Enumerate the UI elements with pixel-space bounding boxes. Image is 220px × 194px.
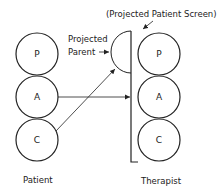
transactional-diagram: (Projected Patient Screen) Projected Par…: [0, 0, 220, 194]
patient-adult-label: A: [34, 92, 41, 102]
projected-screen-line: [131, 31, 138, 162]
title-pointer-arrow: [143, 21, 153, 29]
patient-parent-label: P: [34, 49, 40, 59]
child-to-projected-parent-arrow: [56, 69, 115, 131]
therapist-ego-states: P A C: [138, 33, 180, 161]
patient-ego-states: P A C: [16, 33, 58, 161]
projected-parent-label-line2: Parent: [68, 47, 96, 57]
projected-parent-label-line1: Projected: [68, 34, 108, 44]
patient-child-label: C: [34, 135, 40, 145]
therapist-parent-label: P: [156, 49, 162, 59]
patient-label: Patient: [23, 175, 53, 185]
projected-parent-half-circle: [111, 31, 131, 73]
projected-screen-title: (Projected Patient Screen): [106, 9, 217, 19]
therapist-label: Therapist: [140, 176, 182, 186]
therapist-adult-label: A: [156, 92, 163, 102]
therapist-child-label: C: [156, 135, 162, 145]
